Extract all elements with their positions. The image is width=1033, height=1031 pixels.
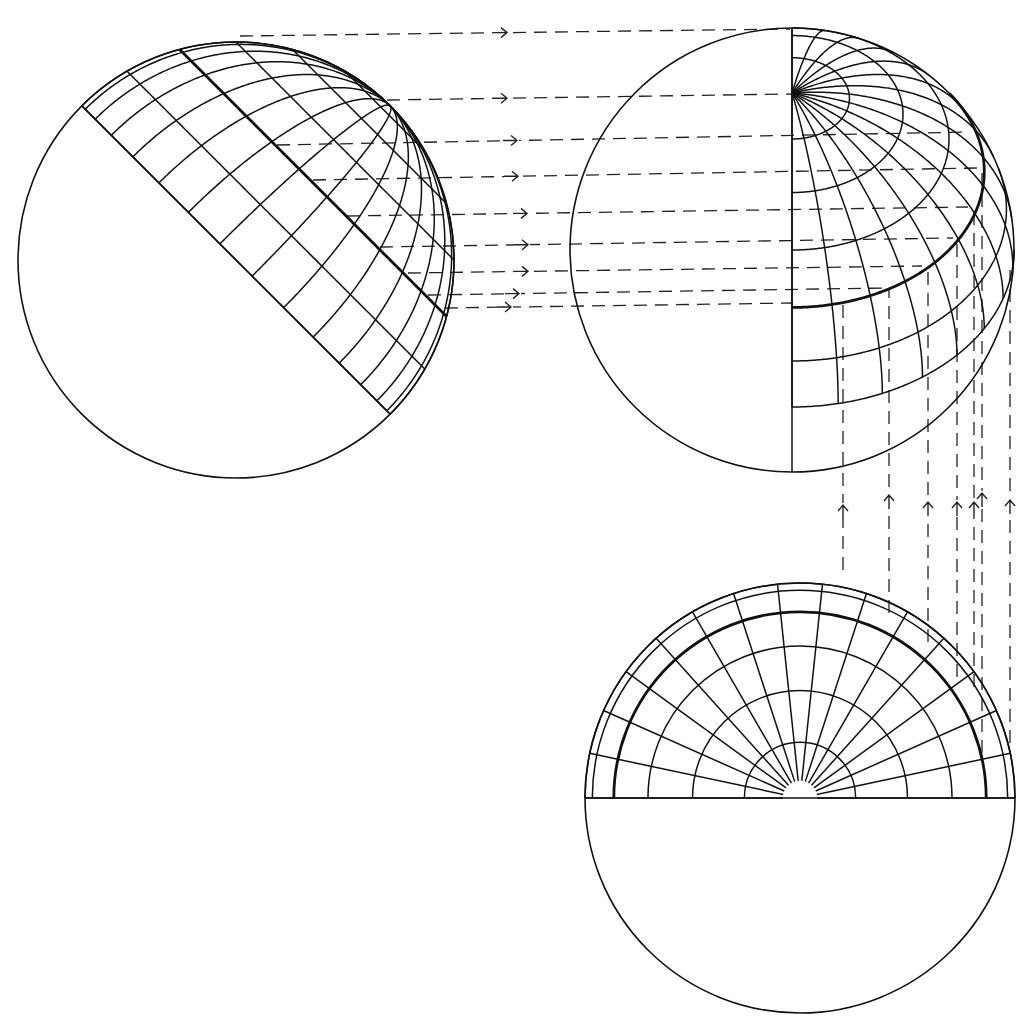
projection-diagram: Orthographic projection of a hemispheric…	[0, 0, 1033, 1031]
canvas-background	[0, 0, 1033, 1031]
